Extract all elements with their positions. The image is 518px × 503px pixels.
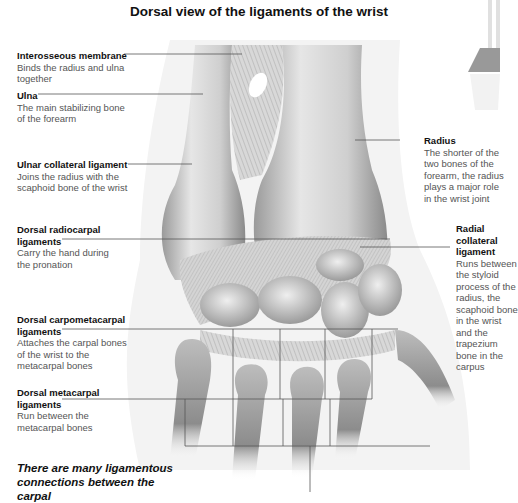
- label-heading: Interosseous membrane: [17, 50, 127, 62]
- label-heading: Ulnar collateral ligament: [17, 159, 132, 171]
- label-heading: Radius: [424, 135, 504, 147]
- label-dorsal-radiocarpal-ligaments: Dorsal radiocarpal ligaments Carry the h…: [17, 224, 112, 270]
- label-heading: Dorsal carpometacarpal ligaments: [17, 314, 127, 337]
- label-description: Attaches the carpal bones of the wrist t…: [17, 337, 127, 372]
- label-dorsal-metacarpal-ligaments: Dorsal metacarpal ligaments Run between …: [17, 387, 102, 433]
- footer-note: There are many ligamentous connections b…: [17, 461, 187, 503]
- label-dorsal-carpometacarpal-ligaments: Dorsal carpometacarpal ligaments Attache…: [17, 314, 127, 372]
- label-description: Runs between the styloid process of the …: [456, 258, 518, 373]
- label-ulna: Ulna The main stabilizing bone of the fo…: [17, 90, 127, 125]
- label-description: Joins the radius with the scaphoid bone …: [17, 171, 132, 194]
- label-heading: Ulna: [17, 90, 127, 102]
- label-description: The shorter of the two bones of the fore…: [424, 147, 504, 205]
- label-interosseous-membrane: Interosseous membrane Binds the radius a…: [17, 50, 127, 85]
- label-description: Carry the hand during the pronation: [17, 247, 112, 270]
- forearm-locator-thumbnail: [468, 0, 500, 110]
- label-ulnar-collateral-ligament: Ulnar collateral ligament Joins the radi…: [17, 159, 132, 194]
- label-radius: Radius The shorter of the two bones of t…: [424, 135, 504, 204]
- label-heading: Dorsal radiocarpal ligaments: [17, 224, 112, 247]
- label-description: Run between the metacarpal bones: [17, 410, 102, 433]
- wrist-highlight: [468, 48, 500, 72]
- label-radial-collateral-ligament: Radial collateral ligament Runs between …: [456, 223, 518, 373]
- label-description: The main stabilizing bone of the forearm: [17, 102, 127, 125]
- label-heading: Radial collateral ligament: [456, 223, 518, 258]
- label-description: Binds the radius and ulna together: [17, 62, 127, 85]
- label-heading: Dorsal metacarpal ligaments: [17, 387, 102, 410]
